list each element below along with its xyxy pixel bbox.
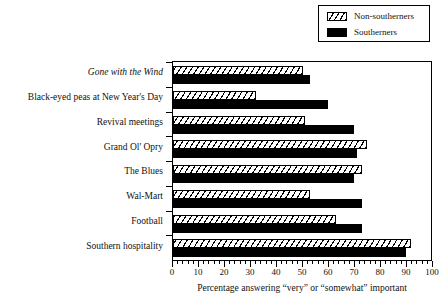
bar-non-southerners-2 — [173, 116, 305, 125]
bar-group-5 — [173, 186, 432, 211]
x-tick-58 — [323, 261, 324, 264]
x-tick-34 — [260, 261, 261, 264]
x-tick-52 — [307, 261, 308, 264]
bar-non-southerners-6 — [173, 215, 336, 224]
y-tick-7 — [166, 235, 172, 236]
legend-label-southerners: Southerners — [354, 27, 397, 37]
x-tick-6 — [188, 261, 189, 264]
y-label-southern-hospitality: Southern hospitality — [0, 241, 163, 252]
x-tick-54 — [312, 261, 313, 264]
x-tick-72 — [359, 261, 360, 264]
y-label-wal-mart: Wal-Mart — [0, 191, 163, 202]
legend-label-non-southerners: Non-southerners — [354, 11, 414, 21]
x-tick-label-90: 90 — [402, 267, 411, 278]
x-tick-42 — [281, 261, 282, 264]
bar-non-southerners-1 — [173, 91, 256, 100]
x-tick-14 — [208, 261, 209, 264]
x-tick-66 — [344, 261, 345, 264]
x-tick-82 — [385, 261, 386, 264]
x-tick-label-30: 30 — [246, 267, 255, 278]
y-label-black-eyed-peas: Black-eyed peas at New Year's Day — [0, 92, 163, 103]
y-tick-4 — [166, 161, 172, 162]
bar-non-southerners-3 — [173, 140, 367, 149]
x-tick-label-70: 70 — [350, 267, 359, 278]
x-tick-18 — [219, 261, 220, 264]
bar-southerners-6 — [173, 224, 362, 233]
x-tick-2 — [177, 261, 178, 264]
legend-item-non-southerners: Non-southerners — [327, 10, 414, 22]
x-tick-label-10: 10 — [194, 267, 203, 278]
x-tick-84 — [390, 261, 391, 264]
x-tick-22 — [229, 261, 230, 264]
y-tick-6 — [166, 211, 172, 212]
x-tick-98 — [427, 261, 428, 264]
x-axis-title: Percentage answering “very” or “somewhat… — [172, 282, 432, 294]
x-tick-64 — [338, 261, 339, 264]
x-tick-56 — [318, 261, 319, 264]
x-tick-16 — [214, 261, 215, 264]
x-tick-94 — [416, 261, 417, 264]
y-label-gone-with-the-wind: Gone with the Wind — [0, 67, 163, 78]
x-tick-92 — [411, 261, 412, 264]
x-tick-label-20: 20 — [220, 267, 229, 278]
x-axis-tick-labels: 0102030405060708090100 — [0, 267, 443, 281]
bar-southerners-3 — [173, 149, 357, 158]
y-label-revival-meetings: Revival meetings — [0, 117, 163, 128]
y-tick-0 — [166, 62, 172, 63]
y-tick-1 — [166, 87, 172, 88]
x-tick-24 — [234, 261, 235, 264]
x-tick-label-100: 100 — [425, 267, 439, 278]
x-tick-4 — [182, 261, 183, 264]
legend-swatch-solid-icon — [327, 28, 347, 37]
bar-non-southerners-5 — [173, 190, 310, 199]
x-tick-48 — [297, 261, 298, 264]
x-tick-28 — [245, 261, 246, 264]
bar-group-3 — [173, 136, 432, 161]
x-tick-78 — [375, 261, 376, 264]
x-tick-86 — [396, 261, 397, 264]
y-axis-labels: Gone with the Wind Black-eyed peas at Ne… — [0, 62, 168, 260]
legend-swatch-hatched-icon — [327, 12, 347, 21]
bar-group-4 — [173, 161, 432, 186]
bar-group-6 — [173, 211, 432, 236]
bar-southerners-5 — [173, 199, 362, 208]
x-tick-96 — [422, 261, 423, 264]
x-tick-74 — [364, 261, 365, 264]
x-tick-38 — [271, 261, 272, 264]
y-tick-2 — [166, 112, 172, 113]
x-tick-label-0: 0 — [170, 267, 175, 278]
x-tick-26 — [240, 261, 241, 264]
x-tick-44 — [286, 261, 287, 264]
bar-non-southerners-0 — [173, 66, 303, 75]
x-tick-label-80: 80 — [376, 267, 385, 278]
x-tick-68 — [349, 261, 350, 264]
x-tick-76 — [370, 261, 371, 264]
bar-southerners-4 — [173, 174, 354, 183]
bar-southerners-0 — [173, 75, 310, 84]
y-label-grand-ol-opry: Grand Ol' Opry — [0, 142, 163, 153]
bar-southerners-7 — [173, 248, 406, 257]
bar-group-1 — [173, 87, 432, 112]
legend-item-southerners: Southerners — [327, 26, 397, 38]
x-tick-12 — [203, 261, 204, 264]
bar-group-7 — [173, 235, 432, 260]
x-tick-8 — [193, 261, 194, 264]
y-tick-3 — [166, 136, 172, 137]
y-label-football: Football — [0, 216, 163, 227]
bar-chart: Non-southerners Southerners Gone with th… — [0, 0, 443, 302]
x-tick-label-40: 40 — [272, 267, 281, 278]
y-label-the-blues: The Blues — [0, 166, 163, 177]
x-tick-62 — [333, 261, 334, 264]
bar-southerners-1 — [173, 100, 328, 109]
x-tick-88 — [401, 261, 402, 264]
bar-non-southerners-7 — [173, 239, 411, 248]
bar-group-0 — [173, 62, 432, 87]
chart-legend: Non-southerners Southerners — [318, 5, 430, 42]
bar-group-2 — [173, 112, 432, 137]
x-tick-46 — [292, 261, 293, 264]
x-tick-32 — [255, 261, 256, 264]
y-tick-5 — [166, 186, 172, 187]
bar-rows — [173, 62, 432, 260]
x-tick-label-50: 50 — [298, 267, 307, 278]
x-tick-36 — [266, 261, 267, 264]
